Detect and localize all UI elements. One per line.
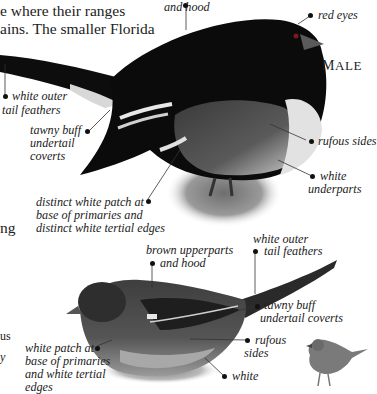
male-dot-undertail xyxy=(85,129,90,134)
body-text-fragment-ng: ng xyxy=(0,219,16,237)
female-label-underparts: white xyxy=(232,370,258,383)
male-label-sides: rufous sides xyxy=(318,135,377,148)
female-label-outer-tail-2: tail feathers xyxy=(264,245,323,258)
thumbnail-bird xyxy=(306,339,368,386)
male-label-underparts-2: underparts xyxy=(308,183,362,196)
male-dot-underparts xyxy=(310,174,315,179)
body-text-fragment-y: y xyxy=(0,348,5,366)
female-dot-undertail xyxy=(255,304,260,309)
female-dot-outer-tail xyxy=(253,249,258,254)
body-text-fragment-us: us xyxy=(0,327,11,345)
female-dot-underparts xyxy=(222,374,227,379)
female-dot-wing-patch xyxy=(95,346,100,351)
male-label-outer-tail-2: tail feathers xyxy=(2,104,61,117)
female-label-sides-2: sides xyxy=(244,347,268,360)
male-dot-outer-tail xyxy=(3,94,8,99)
body-text-line-2: ains. The smaller Florida xyxy=(0,20,155,38)
male-label-outer-tail-1: white outer xyxy=(12,90,67,103)
male-label-eyes: red eyes xyxy=(318,9,358,22)
female-label-undertail-2: undertail coverts xyxy=(260,312,343,325)
female-label-upperparts-2: and hood xyxy=(160,257,206,270)
body-text-line-1: e where their ranges xyxy=(0,2,125,20)
female-dot-sides xyxy=(245,338,250,343)
male-dot-hood xyxy=(183,3,188,8)
female-label-wing-patch-4: edges xyxy=(25,381,53,394)
male-label-undertail-3: coverts xyxy=(30,150,65,163)
male-dot-sides xyxy=(309,139,314,144)
male-dot-eyes xyxy=(308,13,313,18)
male-sex-label: MALE xyxy=(322,58,362,74)
male-dot-wing-patch xyxy=(146,199,151,204)
male-label-wing-patch-3: distinct white tertial edges xyxy=(36,222,165,235)
female-dot-upperparts xyxy=(150,261,155,266)
